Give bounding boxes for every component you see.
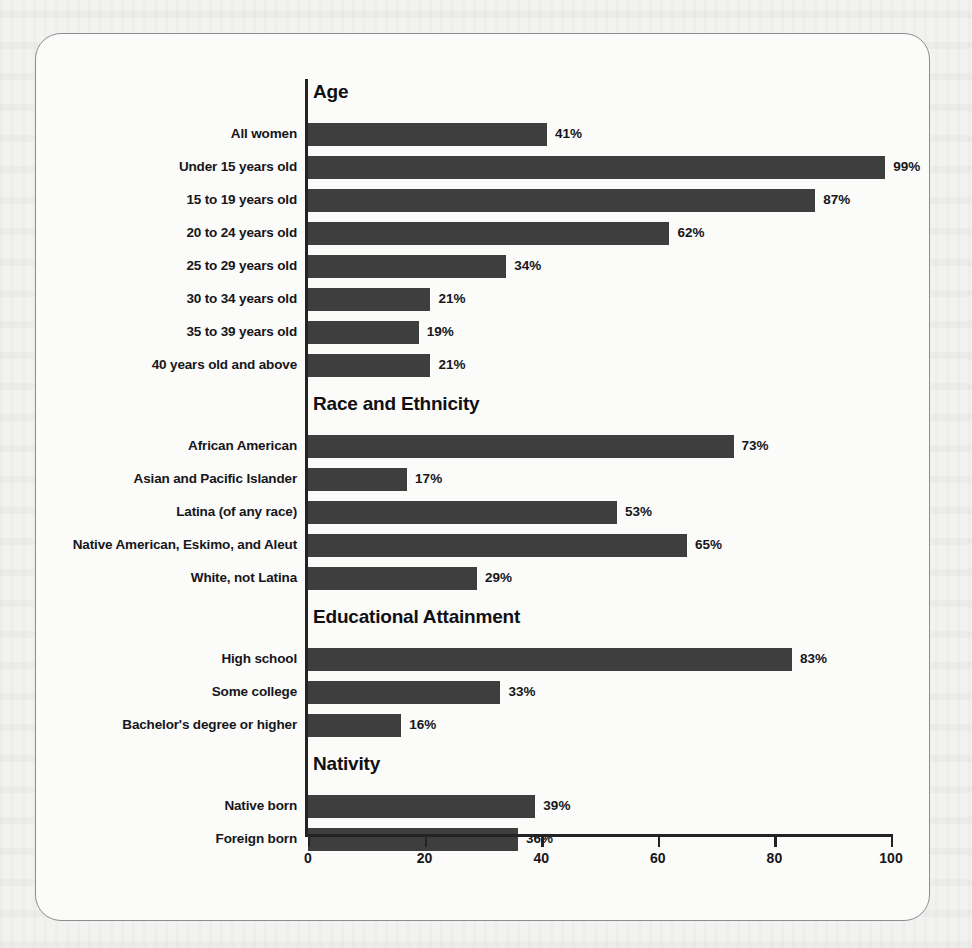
axis-tick-label: 100 <box>879 850 902 866</box>
chart-row: 35 to 39 years old19% <box>36 319 931 352</box>
bar-value-label: 19% <box>427 324 454 339</box>
bar-value-label: 34% <box>514 258 541 273</box>
section-heading: Race and Ethnicity <box>313 393 479 415</box>
chart-row: 30 to 34 years old21% <box>36 286 931 319</box>
category-label: 20 to 24 years old <box>47 225 297 240</box>
chart-row: Native American, Eskimo, and Aleut65% <box>36 532 931 565</box>
bar <box>308 354 430 377</box>
bar-value-label: 62% <box>677 225 704 240</box>
section-heading: Educational Attainment <box>313 606 520 628</box>
bar-chart: AgeAll women41%Under 15 years old99%15 t… <box>36 34 931 922</box>
section-heading: Age <box>313 81 348 103</box>
chart-row: Some college33% <box>36 679 931 712</box>
category-label: Foreign born <box>47 831 297 846</box>
bar <box>308 189 815 212</box>
chart-row: White, not Latina29% <box>36 565 931 598</box>
bar <box>308 123 547 146</box>
bar <box>308 435 734 458</box>
bar <box>308 795 535 818</box>
axis-tick <box>891 834 893 847</box>
category-label: 15 to 19 years old <box>47 192 297 207</box>
bar-value-label: 83% <box>800 651 827 666</box>
category-label: 30 to 34 years old <box>47 291 297 306</box>
chart-row: 25 to 29 years old34% <box>36 253 931 286</box>
chart-row: 15 to 19 years old87% <box>36 187 931 220</box>
category-label: High school <box>47 651 297 666</box>
axis-tick <box>774 834 776 847</box>
axis-tick-label: 60 <box>650 850 666 866</box>
axis-tick <box>658 834 660 847</box>
bar <box>308 156 885 179</box>
bar-value-label: 41% <box>555 126 582 141</box>
chart-row: 40 years old and above21% <box>36 352 931 385</box>
chart-row: Under 15 years old99% <box>36 154 931 187</box>
category-label: Bachelor's degree or higher <box>47 717 297 732</box>
bar <box>308 468 407 491</box>
axis-tick-label: 40 <box>533 850 549 866</box>
figure-frame: AgeAll women41%Under 15 years old99%15 t… <box>35 33 930 921</box>
category-label: Asian and Pacific Islander <box>47 471 297 486</box>
axis-tick <box>308 834 310 847</box>
chart-row: Bachelor's degree or higher16% <box>36 712 931 745</box>
category-label: Latina (of any race) <box>47 504 297 519</box>
category-label: Native American, Eskimo, and Aleut <box>47 537 297 552</box>
bar <box>308 222 669 245</box>
category-label: Under 15 years old <box>47 159 297 174</box>
chart-row: All women41% <box>36 121 931 154</box>
bar-value-label: 17% <box>415 471 442 486</box>
bar-value-label: 53% <box>625 504 652 519</box>
category-label: 25 to 29 years old <box>47 258 297 273</box>
axis-tick <box>425 834 427 847</box>
category-label: African American <box>47 438 297 453</box>
bar-value-label: 21% <box>438 291 465 306</box>
bar-value-label: 39% <box>543 798 570 813</box>
chart-row: African American73% <box>36 433 931 466</box>
bar-value-label: 29% <box>485 570 512 585</box>
value-axis-line <box>305 834 891 837</box>
axis-tick <box>541 834 543 847</box>
category-label: 40 years old and above <box>47 357 297 372</box>
axis-tick-label: 0 <box>304 850 312 866</box>
category-label: 35 to 39 years old <box>47 324 297 339</box>
category-label: All women <box>47 126 297 141</box>
axis-tick-label: 80 <box>767 850 783 866</box>
bar <box>308 648 792 671</box>
bar-value-label: 87% <box>823 192 850 207</box>
section-heading: Nativity <box>313 753 380 775</box>
bar-value-label: 33% <box>508 684 535 699</box>
bar-value-label: 16% <box>409 717 436 732</box>
category-label: Some college <box>47 684 297 699</box>
chart-row: Native born39% <box>36 793 931 826</box>
bar <box>308 681 500 704</box>
bar <box>308 255 506 278</box>
chart-row: 20 to 24 years old62% <box>36 220 931 253</box>
chart-row: Asian and Pacific Islander17% <box>36 466 931 499</box>
bar <box>308 321 419 344</box>
bar-value-label: 21% <box>438 357 465 372</box>
bar <box>308 567 477 590</box>
bar-value-label: 73% <box>742 438 769 453</box>
chart-row: Latina (of any race)53% <box>36 499 931 532</box>
bar <box>308 534 687 557</box>
bar <box>308 828 518 851</box>
bar-value-label: 99% <box>893 159 920 174</box>
chart-row: Foreign born36% <box>36 826 931 859</box>
category-label: White, not Latina <box>47 570 297 585</box>
chart-row: High school83% <box>36 646 931 679</box>
category-label: Native born <box>47 798 297 813</box>
bar-value-label: 65% <box>695 537 722 552</box>
bar <box>308 714 401 737</box>
bar <box>308 501 617 524</box>
axis-tick-label: 20 <box>417 850 433 866</box>
bar <box>308 288 430 311</box>
